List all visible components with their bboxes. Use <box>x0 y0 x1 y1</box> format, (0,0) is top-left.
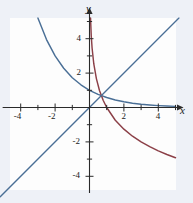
y-tick-label: -2 <box>73 136 81 146</box>
x-axis-label: x <box>180 104 185 116</box>
graph-figure: y x -4 -2 2 4 4 2 -2 -4 <box>0 0 193 203</box>
y-axis-label: y <box>86 2 91 14</box>
y-tick-label: 2 <box>77 67 82 77</box>
x-tick-label: 2 <box>121 111 126 121</box>
y-tick-label: 4 <box>77 33 82 43</box>
x-tick-label: -4 <box>14 111 22 121</box>
x-tick-label: 4 <box>156 111 161 121</box>
x-tick-label: -2 <box>48 111 56 121</box>
exponential-decay-curve <box>38 18 176 106</box>
axes-group <box>3 8 184 194</box>
y-tick-label: -4 <box>73 170 81 180</box>
plot-canvas <box>0 0 193 203</box>
logarithmic-curve <box>91 18 176 158</box>
